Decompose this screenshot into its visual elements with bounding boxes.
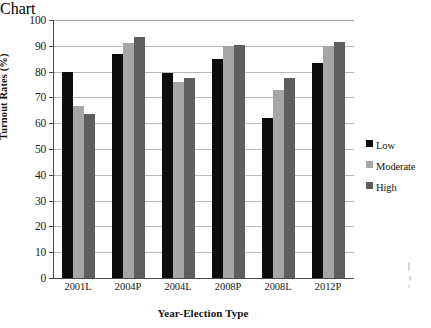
bar-2004L-moderate[interactable]: [173, 82, 184, 278]
legend-swatch-icon: [366, 182, 373, 189]
y-axis-tick-label: 70: [35, 91, 46, 103]
bar-group-2012P: [303, 20, 353, 278]
bar-2001L-moderate[interactable]: [73, 106, 84, 278]
bar-2008L-low[interactable]: [262, 118, 273, 278]
bar-chart-figure: Turnout Rates (%) 0102030405060708090100…: [0, 0, 431, 328]
x-axis-title: Year-Election Type: [53, 307, 353, 319]
bar-2004P-moderate[interactable]: [123, 43, 134, 278]
legend-swatch-icon: [366, 161, 373, 168]
x-axis-tick-label: 2001L: [53, 281, 103, 292]
scan-artifact: [408, 262, 410, 271]
legend-item-high[interactable]: High: [366, 182, 415, 193]
scan-artifact: [408, 285, 410, 288]
scan-artifact: [409, 276, 411, 281]
y-axis-tick-label: 100: [29, 14, 46, 26]
bar-2008L-high[interactable]: [284, 78, 295, 278]
legend-label: High: [376, 182, 397, 193]
legend-swatch-icon: [366, 140, 373, 147]
y-axis-tick-label: 30: [35, 195, 46, 207]
bar-group-2008L: [253, 20, 303, 278]
legend: LowModerateHigh: [366, 140, 415, 193]
bar-2001L-low[interactable]: [62, 72, 73, 278]
bar-group-2001L: [53, 20, 103, 278]
x-axis-tick-label: 2004L: [153, 281, 203, 292]
bar-group-2004L: [153, 20, 203, 278]
bar-group-2008P: [203, 20, 253, 278]
bar-2012P-low[interactable]: [312, 63, 323, 278]
y-axis-tick-label: 0: [40, 272, 46, 284]
bar-2012P-moderate[interactable]: [323, 46, 334, 278]
y-axis-tick-label: 40: [35, 169, 46, 181]
x-axis-tick-label: 2008L: [253, 281, 303, 292]
y-axis-tick-label: 60: [35, 117, 46, 129]
y-axis-title: Turnout Rates (%): [0, 54, 9, 140]
x-axis-tick-label: 2008P: [203, 281, 253, 292]
y-axis-tick-label: 90: [35, 40, 46, 52]
y-axis-tick-label: 20: [35, 220, 46, 232]
legend-item-low[interactable]: Low: [366, 140, 415, 151]
bar-group-2004P: [103, 20, 153, 278]
x-axis-tick-label: 2004P: [103, 281, 153, 292]
legend-label: Low: [376, 140, 395, 151]
x-axis-tick-label: 2012P: [303, 281, 353, 292]
bar-2008P-high[interactable]: [234, 45, 245, 278]
bar-2008P-moderate[interactable]: [223, 46, 234, 278]
y-axis-tick: [49, 278, 54, 279]
x-axis-tick-labels: 2001L2004P2004L2008P2008L2012P: [53, 281, 353, 292]
y-axis-tick-label: 50: [35, 143, 46, 155]
y-axis-tick-label: 10: [35, 246, 46, 258]
bar-2008P-low[interactable]: [212, 59, 223, 278]
bar-2004P-low[interactable]: [112, 54, 123, 278]
bar-2004P-high[interactable]: [134, 37, 145, 278]
bar-2008L-moderate[interactable]: [273, 90, 284, 278]
legend-label: Moderate: [376, 161, 415, 172]
bar-2004L-high[interactable]: [184, 78, 195, 278]
y-axis-tick-label: 80: [35, 66, 46, 78]
legend-item-moderate[interactable]: Moderate: [366, 161, 415, 172]
bar-groups: [53, 20, 353, 278]
bar-2012P-high[interactable]: [334, 42, 345, 278]
bar-2001L-high[interactable]: [84, 114, 95, 278]
bar-2004L-low[interactable]: [162, 73, 173, 278]
